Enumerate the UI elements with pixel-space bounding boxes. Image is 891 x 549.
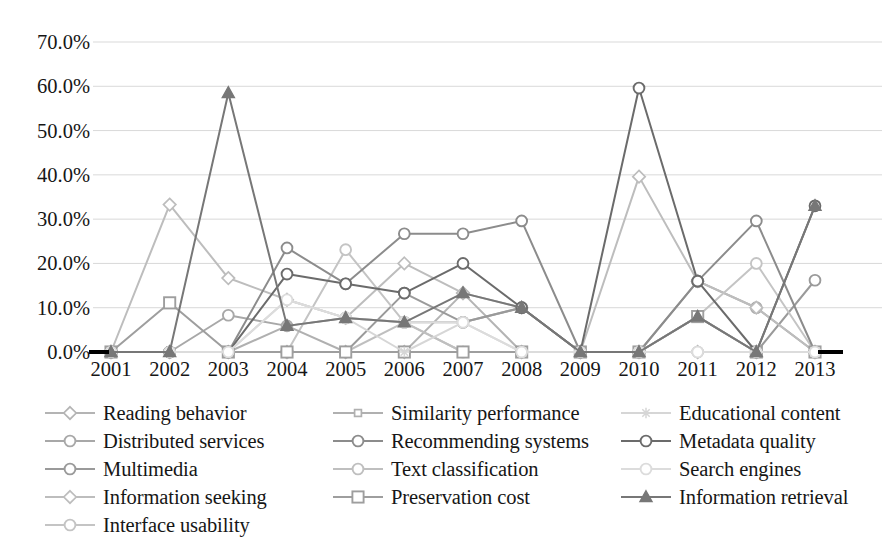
data-point-square: [457, 346, 468, 357]
legend-item[interactable]: Metadata quality: [620, 428, 816, 454]
legend-item[interactable]: Educational content: [620, 400, 840, 426]
legend-item[interactable]: Information retrieval: [620, 484, 848, 510]
x-axis-tick-label: 2013: [780, 358, 850, 381]
data-point-star: [641, 408, 651, 418]
line-chart: 0.0%10.0%20.0%30.0%40.0%50.0%60.0%70.0% …: [0, 0, 891, 549]
legend-item-label: Multimedia: [103, 459, 198, 480]
data-point-circle: [516, 347, 527, 358]
data-point-square: [340, 346, 351, 357]
legend-item-label: Educational content: [679, 403, 840, 424]
plot-area: 0.0%10.0%20.0%30.0%40.0%50.0%60.0%70.0% …: [0, 0, 891, 400]
legend-item[interactable]: Multimedia: [44, 456, 198, 482]
plot-svg: [0, 0, 891, 400]
data-point-circle: [458, 258, 469, 269]
data-point-circle: [751, 216, 762, 227]
legend-marker-diamond-icon: [44, 486, 96, 508]
data-point-circle: [399, 228, 410, 239]
legend-marker-square-icon: [332, 486, 384, 508]
legend-item[interactable]: Search engines: [620, 456, 801, 482]
data-point-circle: [282, 269, 293, 280]
legend-item-label: Search engines: [679, 459, 801, 480]
data-point-circle: [353, 464, 364, 475]
legend-item-label: Text classification: [391, 459, 539, 480]
legend-marker-circle-icon: [332, 458, 384, 480]
legend-item[interactable]: Reading behavior: [44, 400, 247, 426]
data-point-circle: [65, 436, 76, 447]
data-point-circle: [692, 347, 703, 358]
data-point-circle: [641, 436, 652, 447]
legend-item-label: Information seeking: [103, 487, 267, 508]
data-point-circle: [634, 83, 645, 94]
legend-marker-triangle-icon: [620, 486, 672, 508]
legend-item-label: Recommending systems: [391, 431, 589, 452]
legend-marker-diamond-icon: [44, 402, 96, 424]
data-point-circle: [399, 288, 410, 299]
data-point-circle: [65, 464, 76, 475]
legend-item[interactable]: Similarity performance: [332, 400, 580, 426]
legend-item-label: Reading behavior: [103, 403, 247, 424]
data-point-diamond: [64, 407, 76, 419]
legend-marker-circle-icon: [44, 458, 96, 480]
legend-item[interactable]: Information seeking: [44, 484, 267, 510]
y-axis-tick-label: 30.0%: [12, 209, 90, 230]
data-point-circle: [692, 276, 703, 287]
legend-item-label: Similarity performance: [391, 403, 580, 424]
y-axis-tick-label: 10.0%: [12, 298, 90, 319]
data-point-circle: [810, 275, 821, 286]
data-point-circle: [516, 216, 527, 227]
legend-marker-circle-icon: [44, 430, 96, 452]
chart-legend: Reading behaviorSimilarity performanceEd…: [0, 396, 891, 549]
gridlines: [93, 42, 882, 308]
y-axis-tick-label: 60.0%: [12, 76, 90, 97]
legend-item-label: Distributed services: [103, 431, 264, 452]
legend-marker-circle-icon: [332, 430, 384, 452]
y-axis-tick-label: 50.0%: [12, 121, 90, 142]
data-point-diamond: [633, 170, 645, 182]
data-point-circle: [223, 310, 234, 321]
data-point-star: [399, 347, 409, 357]
data-point-circle: [458, 317, 469, 328]
data-point-circle: [340, 278, 351, 289]
legend-item[interactable]: Interface usability: [44, 512, 250, 538]
data-point-circle: [282, 243, 293, 254]
data-point-circle: [340, 244, 351, 255]
data-point-small-square: [355, 410, 362, 417]
legend-item[interactable]: Text classification: [332, 456, 539, 482]
legend-item-label: Interface usability: [103, 515, 250, 536]
x-axis: 2001200220032004200520062007200820092010…: [0, 358, 891, 392]
legend-marker-circle-icon: [620, 458, 672, 480]
data-point-triangle: [222, 87, 234, 98]
data-point-square: [352, 491, 363, 502]
data-point-diamond: [64, 491, 76, 503]
legend-marker-small-square-icon: [332, 402, 384, 424]
legend-item-label: Metadata quality: [679, 431, 816, 452]
y-axis: 0.0%10.0%20.0%30.0%40.0%50.0%60.0%70.0%: [8, 0, 90, 400]
legend-item[interactable]: Recommending systems: [332, 428, 589, 454]
data-point-circle: [641, 464, 652, 475]
data-point-circle: [751, 258, 762, 269]
y-axis-tick-label: 20.0%: [12, 253, 90, 274]
data-point-circle: [282, 294, 293, 305]
y-axis-tick-label: 40.0%: [12, 165, 90, 186]
legend-item[interactable]: Distributed services: [44, 428, 264, 454]
data-point-square: [164, 297, 175, 308]
data-point-circle: [65, 520, 76, 531]
data-point-square: [281, 346, 292, 357]
legend-item[interactable]: Preservation cost: [332, 484, 530, 510]
legend-item-label: Information retrieval: [679, 487, 848, 508]
legend-marker-star-icon: [620, 402, 672, 424]
legend-item-label: Preservation cost: [391, 487, 530, 508]
y-axis-tick-label: 70.0%: [12, 32, 90, 53]
data-point-circle: [353, 436, 364, 447]
legend-marker-circle-icon: [44, 514, 96, 536]
data-point-circle: [458, 228, 469, 239]
data-point-circle: [223, 347, 234, 358]
legend-marker-circle-icon: [620, 430, 672, 452]
